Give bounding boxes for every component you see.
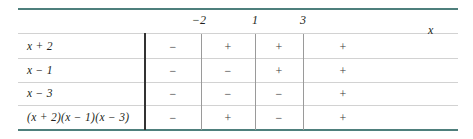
sign-cell: − <box>201 87 255 102</box>
sign-cell: − <box>145 40 201 55</box>
sign-cell: + <box>303 111 383 126</box>
table-bottom-border <box>18 129 458 131</box>
x-axis-label: x <box>428 23 433 38</box>
row-separator-2 <box>18 82 458 83</box>
row-separator-3 <box>18 105 458 106</box>
header-separator <box>18 33 458 34</box>
sign-cell: − <box>145 87 201 102</box>
sign-cell: + <box>201 40 255 55</box>
row-label-product: (x + 2)(x − 1)(x − 3) <box>27 111 129 123</box>
table-top-border <box>18 8 458 10</box>
row-label-factor-1: x + 2 <box>27 40 53 52</box>
row-label-factor-2: x − 1 <box>27 64 53 76</box>
sign-cell: − <box>145 64 201 79</box>
row-separator-1 <box>18 58 458 59</box>
sign-chart-table: −2 1 3 x x + 2 x − 1 x − 3 (x + 2)(x − 1… <box>0 0 473 139</box>
sign-cell: − <box>201 64 255 79</box>
sign-cell: − <box>255 111 303 126</box>
critical-point-label-3: 3 <box>283 13 323 28</box>
sign-cell: + <box>303 87 383 102</box>
critical-point-label-1: −2 <box>179 13 219 28</box>
critical-point-label-2: 1 <box>235 13 275 28</box>
sign-cell: + <box>201 111 255 126</box>
sign-cell: + <box>255 64 303 79</box>
sign-cell: + <box>303 40 383 55</box>
sign-cell: + <box>303 64 383 79</box>
row-label-factor-3: x − 3 <box>27 87 53 99</box>
sign-cell: − <box>145 111 201 126</box>
sign-cell: − <box>255 87 303 102</box>
sign-cell: + <box>255 40 303 55</box>
